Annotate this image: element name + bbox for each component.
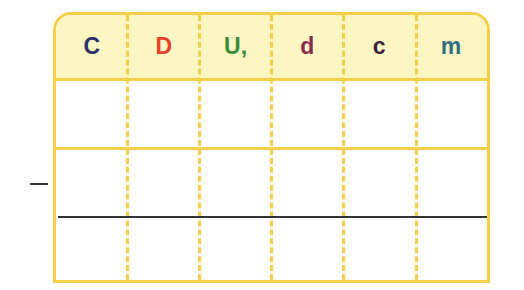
column-divider (342, 15, 345, 280)
column-divider (198, 15, 201, 280)
result-line (58, 216, 487, 218)
header-D: D (128, 15, 200, 78)
header-m: m (415, 15, 487, 78)
header-C: C (56, 15, 128, 78)
header-U: U, (200, 15, 272, 78)
column-divider (415, 15, 418, 280)
header-d: d (271, 15, 343, 78)
column-divider (270, 15, 273, 280)
header-c: c (343, 15, 415, 78)
column-divider (126, 15, 129, 280)
minus-sign (30, 183, 48, 185)
place-value-table: C D U, d c m (53, 12, 490, 283)
